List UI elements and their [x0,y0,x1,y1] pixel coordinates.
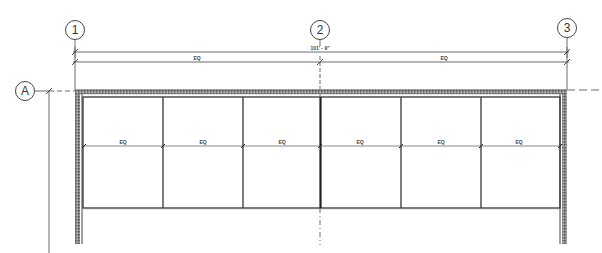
panel-dimension-text-4: EQ [356,139,363,145]
dimension-eq-panels [82,144,562,148]
grid-line-a [16,82,602,253]
panel-dimension-text-6: EQ [515,139,522,145]
bay-dimension-text-1: EQ [193,55,200,61]
grid-bubble-1: 1 [72,23,79,37]
dimension-eq-bays [72,59,570,65]
panel-dimension-text-2: EQ [199,139,206,145]
panel-dimension-text-5: EQ [437,139,444,145]
overall-dimension-text: 101' - 9" [310,45,329,51]
panel-frame [83,97,560,209]
grid-bubble-2: 2 [317,23,324,37]
panel-dimension-text-1: EQ [119,139,126,145]
grid-bubble-a: A [21,84,29,98]
bay-dimension-text-2: EQ [440,55,447,61]
drawing-canvas [0,0,602,253]
panel-dimension-text-3: EQ [278,139,285,145]
grid-bubble-3: 3 [564,21,571,35]
